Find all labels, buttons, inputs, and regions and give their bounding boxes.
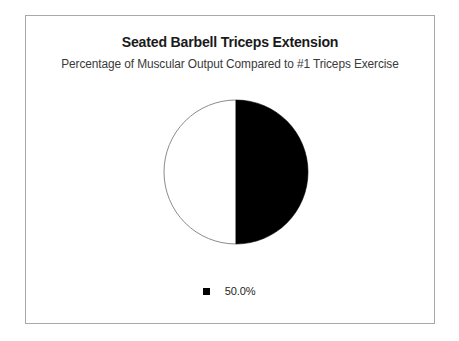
chart-subtitle: Percentage of Muscular Output Compared t… (36, 57, 424, 71)
chart-legend: 50.0% (26, 285, 434, 297)
legend-swatch-icon (203, 288, 210, 295)
pie-chart-svg (163, 99, 309, 245)
legend-item-label: 50.0% (225, 285, 256, 297)
chart-title: Seated Barbell Triceps Extension (38, 33, 422, 50)
legend-item: 50.0% (203, 285, 256, 297)
chart-frame: Seated Barbell Triceps Extension Percent… (25, 15, 435, 324)
pie-slice-primary (236, 100, 308, 244)
pie-slice-unfilled (164, 100, 236, 244)
pie-chart (163, 99, 309, 245)
